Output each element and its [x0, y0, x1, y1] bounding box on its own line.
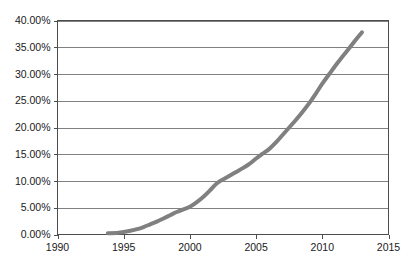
- y-tick-label-25: 25.00%: [15, 94, 51, 106]
- x-tick-label-1995: 1995: [112, 241, 136, 253]
- line-chart: 0.00%5.00%10.00%15.00%20.00%25.00%30.00%…: [0, 0, 412, 277]
- chart-background: [0, 0, 412, 277]
- chart-container: 0.00%5.00%10.00%15.00%20.00%25.00%30.00%…: [0, 0, 412, 277]
- y-tick-label-30: 30.00%: [15, 68, 51, 80]
- y-tick-label-35: 35.00%: [15, 41, 51, 53]
- y-tick-label-15: 15.00%: [15, 148, 51, 160]
- x-tick-label-2000: 2000: [178, 241, 202, 253]
- x-tick-label-2010: 2010: [311, 241, 335, 253]
- x-tick-label-2015: 2015: [377, 241, 401, 253]
- x-tick-label-2005: 2005: [244, 241, 268, 253]
- y-axis-tick-labels: 0.00%5.00%10.00%15.00%20.00%25.00%30.00%…: [15, 14, 51, 240]
- y-tick-label-40: 40.00%: [15, 14, 51, 26]
- y-tick-label-5: 5.00%: [21, 201, 51, 213]
- y-tick-label-10: 10.00%: [15, 175, 51, 187]
- y-tick-label-20: 20.00%: [15, 121, 51, 133]
- y-tick-label-0: 0.00%: [21, 228, 51, 240]
- x-tick-label-1990: 1990: [46, 241, 70, 253]
